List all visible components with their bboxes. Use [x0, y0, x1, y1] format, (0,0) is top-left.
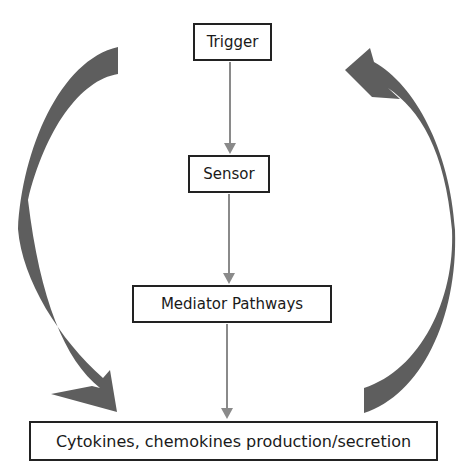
node-sensor-label: Sensor — [203, 165, 254, 183]
curved-arrow-left — [18, 47, 118, 412]
node-cytokines: Cytokines, chemokines production/secreti… — [29, 421, 438, 461]
thin-arrow-trigger-sensor — [224, 62, 236, 154]
node-cytokines-label: Cytokines, chemokines production/secreti… — [56, 432, 411, 451]
node-mediator-pathways: Mediator Pathways — [132, 285, 332, 323]
thin-arrow-mediator-cytokines — [221, 324, 233, 419]
diagram-arrows — [0, 0, 464, 468]
node-trigger: Trigger — [193, 23, 272, 61]
node-trigger-label: Trigger — [207, 33, 259, 51]
thin-arrow-sensor-mediator — [223, 194, 235, 284]
node-mediator-label: Mediator Pathways — [161, 295, 303, 313]
curved-arrow-right — [345, 48, 455, 413]
node-sensor: Sensor — [188, 155, 270, 193]
